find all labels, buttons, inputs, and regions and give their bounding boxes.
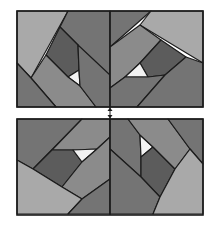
puzzle-diagram: [0, 0, 214, 225]
double-arrow-icon: [108, 107, 113, 119]
